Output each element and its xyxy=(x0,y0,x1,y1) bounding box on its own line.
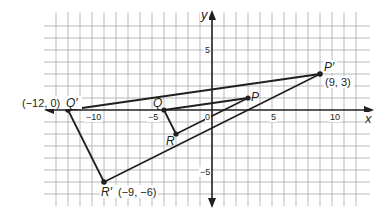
point-p-prime xyxy=(317,71,323,77)
label-p-prime-coord: (9, 3) xyxy=(325,76,351,88)
tick-label-x-10: 10 xyxy=(330,112,340,122)
label-r-prime-coord: (−9, −6) xyxy=(118,186,157,198)
y-axis-arrow-down-icon xyxy=(208,198,216,208)
triangle-segments xyxy=(68,74,320,182)
point-r-prime xyxy=(101,179,107,185)
axes xyxy=(44,10,374,208)
tick-label-y-5: 5 xyxy=(205,45,210,55)
x-axis-label: x xyxy=(364,111,372,126)
tick-label-y-neg5: −5 xyxy=(200,167,210,177)
tick-label-x-neg5: −5 xyxy=(148,112,158,122)
label-r-prime: R′ xyxy=(101,185,113,199)
label-r: R xyxy=(166,134,175,148)
coordinate-plane: −10 −5 0 5 10 5 −5 x y P Q R P′ (9, 3) (… xyxy=(0,0,389,218)
label-q-prime-coord: (−12, 0) xyxy=(22,97,60,109)
tick-label-x-5: 5 xyxy=(271,112,276,122)
label-p: P xyxy=(251,90,259,104)
tick-label-x-0: 0 xyxy=(205,112,210,122)
point-p xyxy=(245,95,250,100)
label-q: Q xyxy=(153,96,162,110)
label-q-prime: Q′ xyxy=(66,96,78,110)
label-p-prime: P′ xyxy=(324,60,335,74)
tick-label-x-neg10: −10 xyxy=(86,112,101,122)
y-axis-arrow-up-icon xyxy=(208,10,216,20)
